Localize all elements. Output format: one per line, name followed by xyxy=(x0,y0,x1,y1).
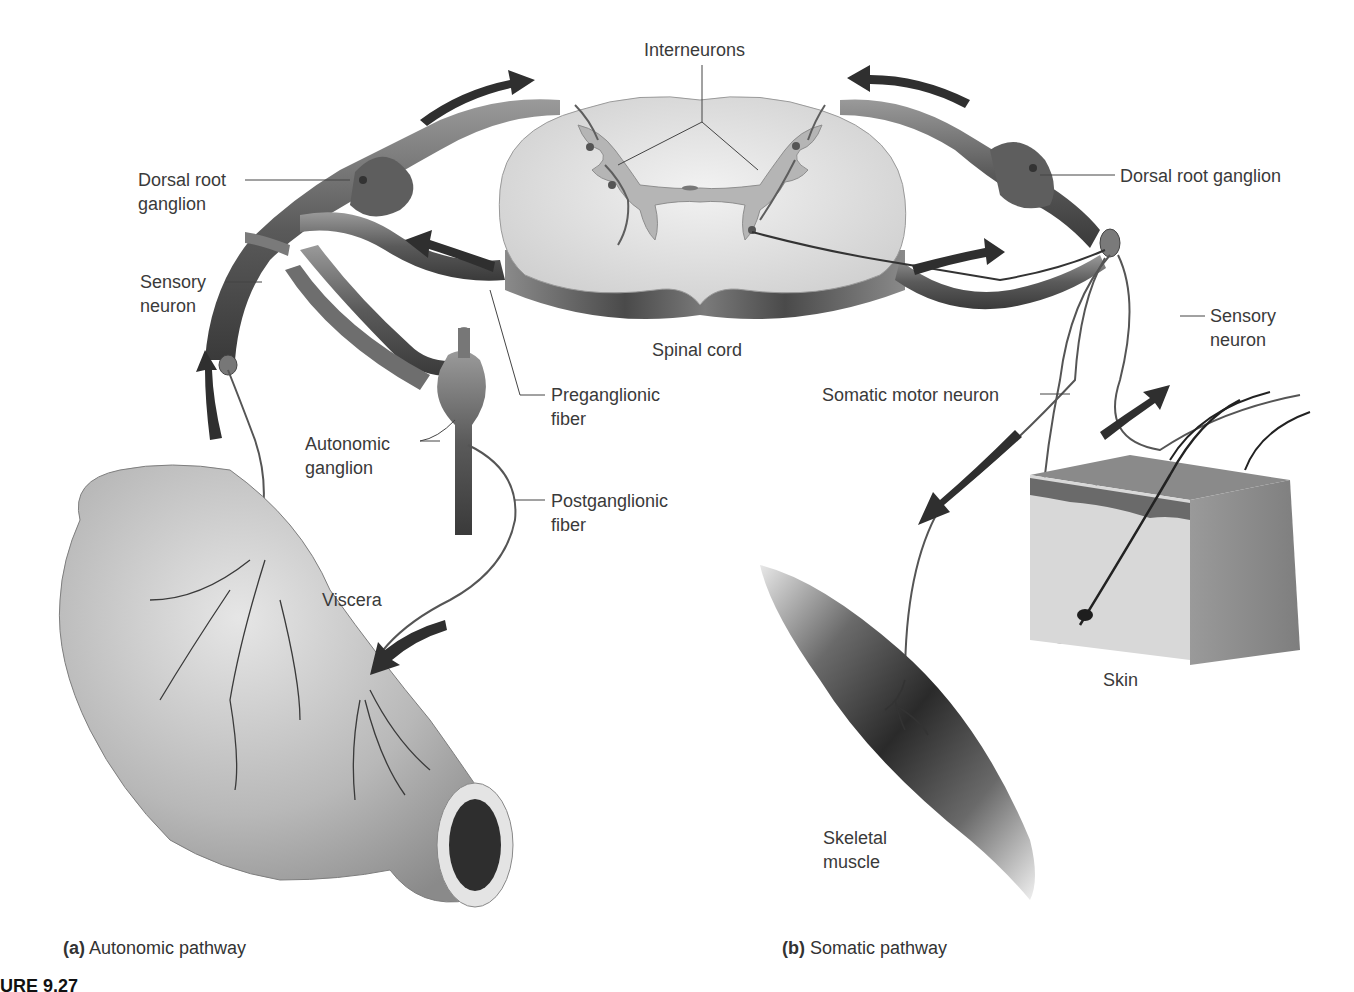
skin-illustration xyxy=(1030,392,1310,665)
spinal-cord xyxy=(499,97,905,319)
label-sensory-neuron-left: Sensory neuron xyxy=(140,270,206,318)
diagram-illustration xyxy=(0,0,1354,992)
skeletal-muscle-illustration xyxy=(760,565,1035,900)
label-viscera: Viscera xyxy=(322,588,382,612)
label-somatic-motor-neuron: Somatic motor neuron xyxy=(822,383,999,407)
neural-pathway-diagram: Interneurons Spinal cord Dorsal root gan… xyxy=(0,0,1354,992)
figure-caption-fragment: URE 9.27 xyxy=(0,976,78,992)
panel-caption-a: (a) Autonomic pathway xyxy=(63,938,246,959)
label-skeletal-muscle: Skeletal muscle xyxy=(823,826,887,874)
panel-letter-a: (a) xyxy=(63,938,85,958)
panel-letter-b: (b) xyxy=(782,938,805,958)
arrow-icon xyxy=(196,350,222,440)
label-sensory-neuron-right: Sensory neuron xyxy=(1210,304,1276,352)
panel-title-a: Autonomic pathway xyxy=(89,938,246,958)
label-autonomic-ganglion: Autonomic ganglion xyxy=(305,432,390,480)
arrow-icon xyxy=(918,430,1022,525)
arrow-icon xyxy=(912,238,1005,275)
label-skin: Skin xyxy=(1103,668,1138,692)
viscera-illustration xyxy=(59,465,513,907)
label-postganglionic-fiber: Postganglionic fiber xyxy=(551,489,668,537)
arrow-icon xyxy=(370,620,447,675)
panel-title-b: Somatic pathway xyxy=(810,938,947,958)
label-dorsal-root-ganglion-left: Dorsal root ganglion xyxy=(138,168,226,216)
label-dorsal-root-ganglion-right: Dorsal root ganglion xyxy=(1120,164,1281,188)
label-spinal-cord: Spinal cord xyxy=(652,338,742,362)
arrow-icon xyxy=(1100,385,1170,440)
label-interneurons: Interneurons xyxy=(644,38,745,62)
label-preganglionic-fiber: Preganglionic fiber xyxy=(551,383,660,431)
panel-caption-b: (b) Somatic pathway xyxy=(782,938,947,959)
